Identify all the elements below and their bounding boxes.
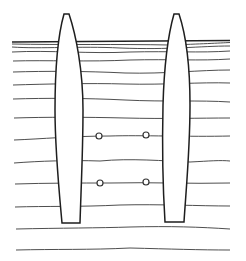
diagram-svg	[0, 0, 246, 261]
soil-layer-line	[14, 160, 230, 163]
soil-layer-line	[14, 136, 230, 140]
soil-layer-line	[13, 83, 230, 85]
pile-diagram	[0, 0, 246, 261]
soil-layer-line	[13, 70, 230, 73]
soil-layer-line	[12, 46, 230, 49]
soil-layer-line	[13, 59, 230, 61]
left-pile	[55, 14, 83, 223]
soil-layer-line	[12, 43, 230, 46]
measurement-points	[96, 132, 149, 186]
soil-layer-line	[15, 183, 230, 184]
measurement-point-marker	[143, 179, 149, 185]
soil-layer-line	[13, 98, 230, 102]
soil-layer-line	[16, 227, 230, 229]
measurement-point-marker	[96, 133, 102, 139]
soil-layers	[12, 43, 230, 251]
soil-layer-line	[16, 248, 230, 250]
measurement-point-marker	[97, 180, 103, 186]
ground-surface-line	[12, 41, 230, 43]
soil-layer-line	[14, 117, 230, 118]
soil-layer-line	[15, 205, 230, 207]
soil-layer-line	[12, 51, 230, 53]
measurement-point-marker	[143, 132, 149, 138]
